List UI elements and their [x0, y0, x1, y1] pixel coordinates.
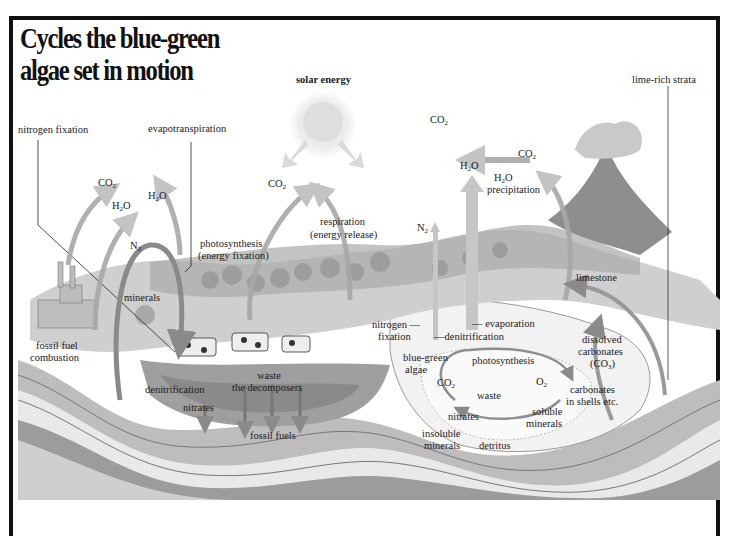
label-soluble-minerals: minerals: [526, 418, 562, 430]
label-nitrates-water: nitrates: [448, 411, 479, 423]
label-evapotranspiration: evapotranspiration: [148, 123, 226, 135]
label-lime-rich-strata: lime-rich strata: [632, 74, 696, 86]
evapotranspiration-leader: [185, 142, 191, 272]
label-photosynthesis-water: photosynthesis: [472, 355, 534, 367]
label-soluble: soluble: [532, 406, 562, 418]
label-respiration: respiration: [320, 216, 365, 228]
label-nitrogen-fixation: nitrogen fixation: [18, 124, 88, 136]
label-co2-water: CO2: [437, 377, 455, 392]
label-limestone: limestone: [576, 272, 617, 284]
label-energy-release: (energy release): [310, 229, 377, 241]
label-evaporation: — evaporation: [472, 318, 535, 330]
sun-icon: [282, 91, 364, 168]
label-insoluble-minerals: minerals: [424, 440, 460, 452]
label-insoluble: insoluble: [422, 428, 461, 440]
label-co2-volcano-left: CO2: [430, 114, 448, 129]
label-h2o-left: H2O: [112, 200, 131, 215]
label-waste-water: waste: [477, 390, 501, 402]
label-nitrates-land: nitrates: [183, 402, 214, 414]
label-h2o-rising: H2O: [460, 160, 479, 175]
label-co2-volcano-right: CO2: [518, 148, 536, 163]
label-fossil-fuels: fossil fuels: [250, 430, 296, 442]
label-solar-energy: solar energy: [296, 74, 351, 86]
label-detritus: detritus: [479, 440, 511, 452]
label-combustion: combustion: [30, 352, 79, 364]
label-denitrification-land: denitrification: [145, 384, 204, 396]
label-nitrogen-water: nitrogen —: [372, 319, 420, 331]
label-denitrification-water: —denitrification: [434, 331, 504, 343]
label-fossil-fuel: fossil fuel: [36, 340, 78, 352]
label-in-shells: in shells etc.: [566, 396, 618, 408]
label-carbonates: carbonates: [578, 346, 623, 358]
label-blue-green: blue-green: [403, 352, 448, 364]
label-fixation-water: fixation: [378, 331, 411, 343]
label-dissolved: dissolved: [582, 334, 622, 346]
label-the-decomposers: the decomposers: [232, 382, 302, 394]
label-co2-left: CO2: [98, 177, 116, 192]
label-co2-center: CO2: [268, 178, 286, 193]
label-minerals: minerals: [124, 292, 160, 304]
label-carbonates-shells: carbonates: [570, 384, 615, 396]
label-n2-right: N2: [417, 222, 428, 237]
label-photosynthesis-land: photosynthesis: [200, 238, 262, 250]
label-n2-left: N2: [130, 240, 141, 255]
label-precipitation: precipitation: [487, 184, 540, 196]
label-waste-land: waste: [257, 370, 281, 382]
title-line-1: Cycles the blue-green: [20, 22, 219, 54]
label-o2-water: O2: [536, 376, 547, 391]
label-algae: algae: [405, 364, 427, 376]
label-energy-fixation: (energy fixation): [198, 250, 269, 262]
label-h2o-mid: H2O: [148, 190, 167, 205]
label-co3: (CO3): [590, 358, 615, 373]
title-line-2: algae set in motion: [20, 54, 219, 86]
diagram-title: Cycles the blue-green algae set in motio…: [20, 22, 219, 86]
